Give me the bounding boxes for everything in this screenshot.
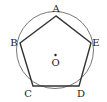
pentagon-in-circle-diagram: A B C D E O [0, 0, 107, 102]
center-point-o [54, 54, 56, 56]
label-d: D [77, 88, 85, 99]
label-a: A [51, 3, 60, 14]
pentagon-abcde [20, 16, 91, 86]
label-b: B [10, 37, 17, 48]
label-o: O [51, 57, 59, 68]
label-e: E [92, 37, 99, 48]
label-c: C [24, 88, 32, 99]
